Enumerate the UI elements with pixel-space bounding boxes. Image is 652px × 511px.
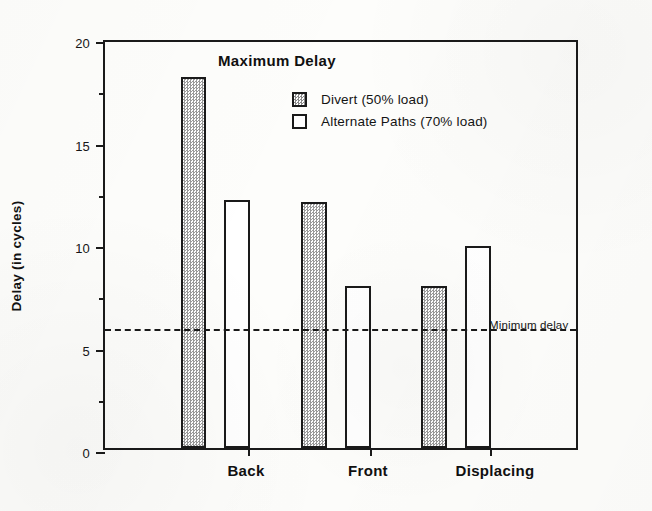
x-category-label-front: Front (348, 462, 388, 479)
bar-back-divert (181, 77, 206, 448)
x-tick-front (370, 448, 372, 456)
chart-title: Maximum Delay (218, 52, 336, 69)
bar-back-alternate (224, 200, 250, 448)
x-tick-displacing (490, 448, 492, 456)
chart-legend: Divert (50% load) Alternate Paths (70% l… (292, 88, 488, 132)
x-tick-back (248, 448, 250, 456)
x-category-label-displacing: Displacing (456, 462, 535, 479)
bar-front-alternate (345, 286, 371, 448)
legend-item-alternate-paths: Alternate Paths (70% load) (292, 110, 488, 132)
legend-swatch-divert-icon (292, 92, 307, 107)
y-tick-label-0: 0 (83, 446, 90, 461)
legend-item-divert: Divert (50% load) (292, 88, 488, 110)
bar-front-divert (301, 202, 327, 448)
y-tick-minor-7-5 (99, 298, 105, 300)
y-tick-minor-12-5 (99, 196, 105, 198)
x-category-label-back: Back (227, 462, 264, 479)
y-tick-major-0: 0 (96, 452, 105, 454)
y-tick-label-15: 15 (75, 139, 90, 154)
y-tick-major-20: 20 (96, 42, 105, 44)
y-axis-title: Delay (in cycles) (9, 200, 24, 311)
bar-displacing-divert (421, 286, 447, 448)
y-tick-minor-17-5 (99, 93, 105, 95)
legend-label-alternate-paths: Alternate Paths (70% load) (321, 114, 488, 129)
bar-displacing-alternate (465, 246, 491, 448)
minimum-delay-label: Minimum delay (489, 319, 568, 331)
y-tick-label-5: 5 (83, 344, 90, 359)
y-tick-minor-2-5 (99, 401, 105, 403)
chart-figure: Delay (in cycles) 0 5 10 15 20 (0, 0, 652, 511)
legend-label-divert: Divert (50% load) (321, 92, 429, 107)
y-tick-major-10: 10 (96, 247, 105, 249)
y-tick-label-20: 20 (75, 36, 90, 51)
legend-swatch-alternate-icon (292, 114, 307, 129)
y-tick-major-5: 5 (96, 350, 105, 352)
y-tick-label-10: 10 (75, 241, 90, 256)
y-tick-major-15: 15 (96, 145, 105, 147)
